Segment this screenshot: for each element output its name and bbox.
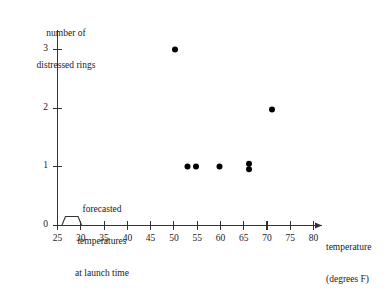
forecast-annotation: forecasted temperatures at launch time <box>54 183 150 289</box>
x-axis-arrowhead <box>315 223 322 229</box>
y-tick-label-2: 2 <box>34 102 48 113</box>
forecast-annotation-line2: temperatures <box>54 236 150 247</box>
data-point <box>217 164 223 170</box>
data-point <box>246 166 252 172</box>
y-tick-label-3: 3 <box>34 43 48 54</box>
forecast-annotation-line3: at launch time <box>54 268 150 279</box>
x-tick-label-80: 80 <box>302 233 326 244</box>
x-tick-label-50: 50 <box>162 233 186 244</box>
data-point <box>172 47 178 53</box>
y-tick-label-0: 0 <box>34 219 48 230</box>
y-axis-title: number of distressed rings <box>6 7 126 92</box>
x-axis-title-line1: temperature <box>326 242 371 253</box>
x-tick-label-60: 60 <box>209 233 233 244</box>
y-axis-title-line2: distressed rings <box>6 60 126 71</box>
data-point-group <box>172 47 275 173</box>
data-point <box>185 164 191 170</box>
x-axis-title-line2: (degrees F) <box>326 274 371 285</box>
x-tick-label-70: 70 <box>255 233 279 244</box>
data-point <box>269 107 275 113</box>
data-point <box>246 161 252 167</box>
forecast-annotation-line1: forecasted <box>54 204 150 215</box>
x-axis-title: temperature (degrees F) <box>326 221 371 289</box>
y-tick-label-1: 1 <box>34 160 48 171</box>
x-tick-label-65: 65 <box>232 233 256 244</box>
y-axis-title-line1: number of <box>6 28 126 39</box>
x-tick-label-75: 75 <box>278 233 302 244</box>
data-point <box>193 164 199 170</box>
x-tick-label-55: 55 <box>185 233 209 244</box>
